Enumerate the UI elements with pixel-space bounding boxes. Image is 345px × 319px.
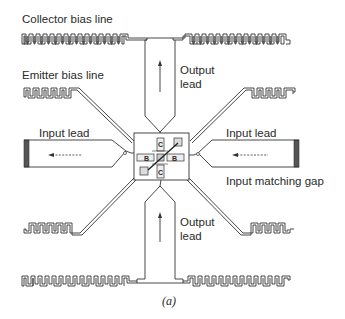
collector-bias-meander-bottom-left bbox=[22, 276, 137, 286]
output-lead-bottom bbox=[137, 180, 183, 283]
collector-bias-line-label: Collector bias line bbox=[22, 13, 113, 26]
chip-base-left-label: B bbox=[144, 152, 149, 165]
output-lead-top bbox=[145, 38, 175, 142]
input-lead-left-label: Input lead bbox=[39, 127, 90, 140]
chip-base-right-label: B bbox=[172, 152, 177, 165]
chip-collector-top-label: C bbox=[158, 138, 163, 151]
input-lead-right bbox=[189, 140, 299, 167]
figure-caption: (a) bbox=[162, 294, 176, 309]
output-lead-bottom-label-1: Output bbox=[180, 216, 215, 229]
collector-bias-meander-left bbox=[22, 34, 147, 44]
emitter-bias-meander-lower-left bbox=[24, 178, 136, 235]
input-lead-left bbox=[24, 140, 135, 167]
output-lead-top-label-2: lead bbox=[180, 78, 202, 91]
input-lead-right-label: Input lead bbox=[226, 127, 277, 140]
chip-collector-bottom-label: C bbox=[158, 166, 163, 179]
emitter-bias-line-label: Emitter bias line bbox=[22, 69, 104, 82]
output-lead-top-label-1: Output bbox=[180, 64, 215, 77]
collector-bias-meander-right bbox=[175, 34, 290, 44]
input-matching-gap-label: Input matching gap bbox=[226, 175, 324, 188]
collector-bias-meander-bottom-right bbox=[183, 276, 290, 286]
output-lead-bottom-label-2: lead bbox=[180, 230, 202, 243]
